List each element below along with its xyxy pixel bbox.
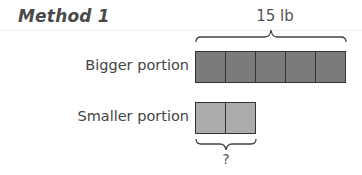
bigger-portion-label: Bigger portion	[60, 57, 189, 73]
unit-cell	[196, 52, 226, 82]
unit-cell	[226, 103, 255, 133]
smaller-portion-label: Smaller portion	[50, 108, 189, 124]
bigger-portion-bar	[195, 51, 346, 83]
unknown-label: ?	[216, 151, 236, 167]
total-label: 15 lb	[240, 7, 310, 25]
unit-cell	[256, 52, 286, 82]
top-brace-icon	[195, 28, 347, 44]
smaller-portion-bar	[195, 102, 256, 134]
unit-cell	[286, 52, 316, 82]
bottom-brace-icon	[195, 138, 257, 152]
unit-cell	[316, 52, 345, 82]
method-title: Method 1	[18, 6, 110, 26]
unit-cell	[226, 52, 256, 82]
unit-cell	[196, 103, 226, 133]
